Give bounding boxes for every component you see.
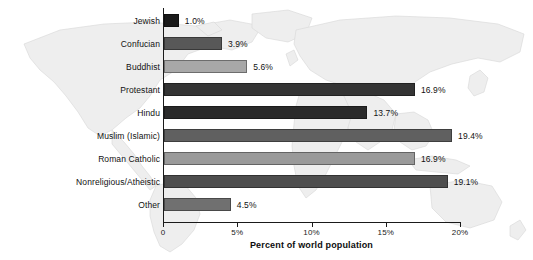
x-tick-label: 0: [161, 228, 166, 237]
bar: [164, 129, 452, 142]
plot-area: 05%10%15%20% Jewish1.0%Confucian3.9%Budd…: [0, 0, 533, 260]
bar-row: Confucian3.9%: [0, 37, 533, 50]
bar: [164, 106, 367, 119]
bar: [164, 198, 231, 211]
bar-row: Nonreligious/Atheistic19.1%: [0, 175, 533, 188]
x-tick-mark: [312, 222, 313, 227]
category-label: Jewish: [133, 16, 160, 26]
bar-value-label: 4.5%: [237, 200, 257, 210]
bar-row: Roman Catholic16.9%: [0, 152, 533, 165]
x-tick-mark: [237, 222, 238, 227]
bar: [164, 175, 448, 188]
category-label: Buddhist: [126, 62, 160, 72]
bar-value-label: 5.6%: [253, 62, 273, 72]
bar-value-label: 3.9%: [228, 39, 248, 49]
bar-value-label: 16.9%: [421, 85, 446, 95]
x-tick-label: 15%: [378, 228, 394, 237]
bar: [164, 83, 415, 96]
category-label: Other: [138, 200, 160, 210]
bar-value-label: 19.4%: [458, 131, 483, 141]
category-label: Confucian: [121, 39, 160, 49]
bar-row: Hindu13.7%: [0, 106, 533, 119]
category-label: Protestant: [120, 85, 160, 95]
bar-value-label: 1.0%: [185, 16, 205, 26]
bar: [164, 37, 222, 50]
category-label: Nonreligious/Atheistic: [76, 177, 160, 187]
bar: [164, 60, 247, 73]
religion-population-bar-chart: 05%10%15%20% Jewish1.0%Confucian3.9%Budd…: [0, 0, 533, 260]
bar-row: Protestant16.9%: [0, 83, 533, 96]
category-label: Hindu: [137, 108, 160, 118]
bar: [164, 152, 415, 165]
x-tick-mark: [460, 222, 461, 227]
x-tick-mark: [163, 222, 164, 227]
x-tick-mark: [386, 222, 387, 227]
bar-value-label: 19.1%: [454, 177, 479, 187]
bar-value-label: 16.9%: [421, 154, 446, 164]
category-label: Muslim (Islamic): [97, 131, 160, 141]
bar-value-label: 13.7%: [373, 108, 398, 118]
x-axis-title: Percent of world population: [163, 240, 460, 250]
bar-row: Other4.5%: [0, 198, 533, 211]
x-tick-label: 5%: [231, 228, 243, 237]
bar-row: Jewish1.0%: [0, 14, 533, 27]
bar-row: Muslim (Islamic)19.4%: [0, 129, 533, 142]
bar-row: Buddhist5.6%: [0, 60, 533, 73]
category-label: Roman Catholic: [98, 154, 160, 164]
x-tick-label: 20%: [452, 228, 468, 237]
x-tick-label: 10%: [303, 228, 319, 237]
bar: [164, 14, 179, 27]
